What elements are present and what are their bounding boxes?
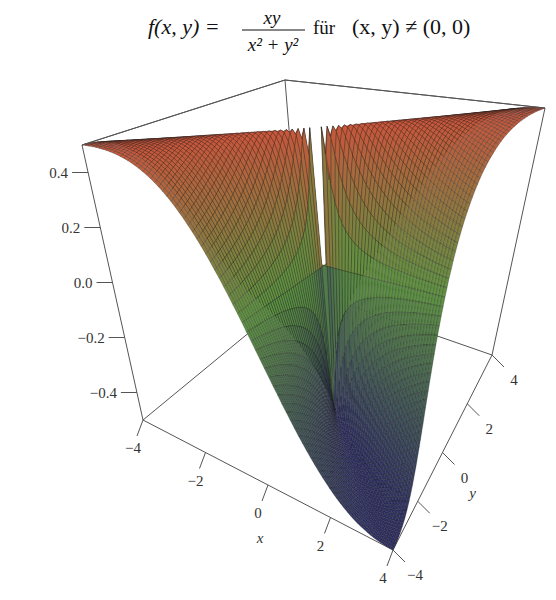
title-lhs: f(x, y) =: [148, 14, 220, 39]
title-numerator: xy: [263, 7, 281, 28]
y-tick: [443, 453, 455, 465]
z-tick-label: 0.0: [74, 275, 93, 291]
y-tick: [492, 355, 504, 367]
x-tick: [200, 453, 206, 469]
box-edge: [285, 80, 545, 108]
z-tick-label: −0.2: [77, 330, 104, 346]
y-tick: [418, 501, 430, 513]
chart-title: f(x, y) = xy x² + y² für (x, y) ≠ (0, 0): [148, 7, 470, 55]
x-tick-label: 4: [379, 570, 387, 586]
surface-plot: f(x, y) = xy x² + y² für (x, y) ≠ (0, 0)…: [0, 0, 556, 600]
x-tick: [262, 485, 268, 501]
y-tick: [393, 550, 405, 562]
y-tick: [467, 404, 479, 416]
x-axis-label: x: [256, 530, 264, 546]
box-edge: [492, 108, 545, 355]
title-condition-word: für: [313, 17, 336, 38]
z-tick-label: 0.4: [49, 165, 68, 181]
x-tick-label: −2: [188, 473, 204, 489]
x-tick: [387, 550, 393, 566]
surface-facet: [339, 214, 343, 270]
y-tick-label: −2: [432, 518, 448, 534]
x-tick: [137, 420, 143, 436]
title-condition: (x, y) ≠ (0, 0): [352, 14, 470, 39]
surface-facet: [345, 271, 348, 312]
z-tick-label: 0.2: [62, 220, 81, 236]
surface-facet: [343, 312, 346, 358]
y-tick-label: 4: [510, 372, 518, 388]
surface-facet: [342, 223, 345, 271]
y-tick-label: −4: [407, 567, 423, 583]
z-tick-label: −0.4: [90, 385, 118, 401]
x-tick-label: 2: [317, 538, 325, 554]
surface-facet: [342, 270, 345, 317]
y-axis-label: y: [467, 485, 476, 501]
title-denominator: x² + y²: [247, 34, 299, 55]
x-tick: [325, 518, 331, 534]
x-tick-label: 0: [254, 505, 262, 521]
y-tick-label: 2: [486, 421, 494, 437]
x-tick-label: −4: [125, 440, 141, 456]
y-tick-label: 0: [461, 470, 469, 486]
